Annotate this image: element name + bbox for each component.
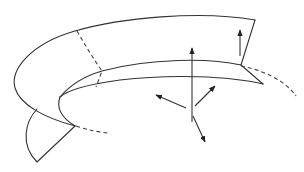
band-surface-diagram [0,0,304,172]
outer-edge-curve [14,16,255,126]
arrow-lower-right [193,116,205,142]
dashed-continuation-bottom [76,126,108,133]
right-end-edge [241,20,255,65]
arrow-upper-right [195,86,215,106]
left-flap-edge [26,109,75,162]
inner-edge-upper [60,60,241,97]
dashed-cross-section [77,31,102,87]
arrow-upper-left [156,95,186,108]
inner-edge-lower [60,77,263,97]
